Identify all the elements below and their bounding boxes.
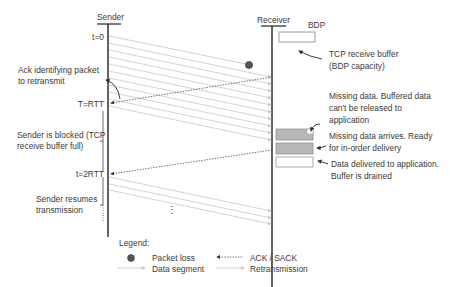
legend-ack-sack: ACK / SACK [250,253,297,264]
resumed-segments [109,177,271,224]
buffer-state-boxes [276,129,313,167]
continuation-dots: ⋮ [167,205,177,216]
data-segments-window-1 [109,36,271,140]
sender-blocked-text-line2: receive buffer full) [17,141,83,152]
legend-data-segment: Data segment [152,264,204,275]
ack-identifying-text-line2: to retransmit [18,76,65,87]
buffer-desc-line2: (BDP capacity) [329,61,385,72]
bdp-label: BDP [308,20,325,31]
delivered-text-line2: Buffer is drained [331,171,392,182]
receiver-label: Receiver [257,15,290,26]
missing-arrives-text-line1: Missing data arrives. Ready [329,131,432,142]
delivered-text-line1: Data delivered to application. [331,159,439,170]
sender-blocked-text-line1: Sender is blocked (TCP [17,130,105,141]
ack-identifying-text-line1: Ack identifying packet [18,65,99,76]
missing-data-text-line1: Missing data. Buffered data [329,91,431,102]
t-2rtt-label: t=2RTT [60,169,104,180]
missing-arrives-text-line2: for in-order delivery [329,143,401,154]
packet-loss-dot [245,61,252,68]
t0-label: t=0 [60,32,104,43]
bdp-buffer-box [279,32,315,42]
legend-title: Legend: [119,238,149,249]
sender-resumes-text-line1: Sender resumes [36,194,97,205]
t-rtt-label: T=RTT [60,99,104,110]
legend-packet-loss: Packet loss [152,253,195,264]
ack-sack-arrow-2 [111,150,272,174]
missing-data-text-line2: can't be released to [329,103,402,114]
sender-label: Sender [97,12,124,23]
missing-data-text-line3: application [329,115,369,126]
receiver-timeline [261,26,286,287]
sender-blocked-bracket [100,111,103,171]
sender-resumes-bracket [100,177,103,222]
buffer-desc-line1: TCP receive buffer [329,49,399,60]
sender-resumes-text-line2: transmission [36,205,83,216]
ack-sack-arrow-1 [111,77,272,103]
legend-retransmission: Retransmission [250,264,308,275]
